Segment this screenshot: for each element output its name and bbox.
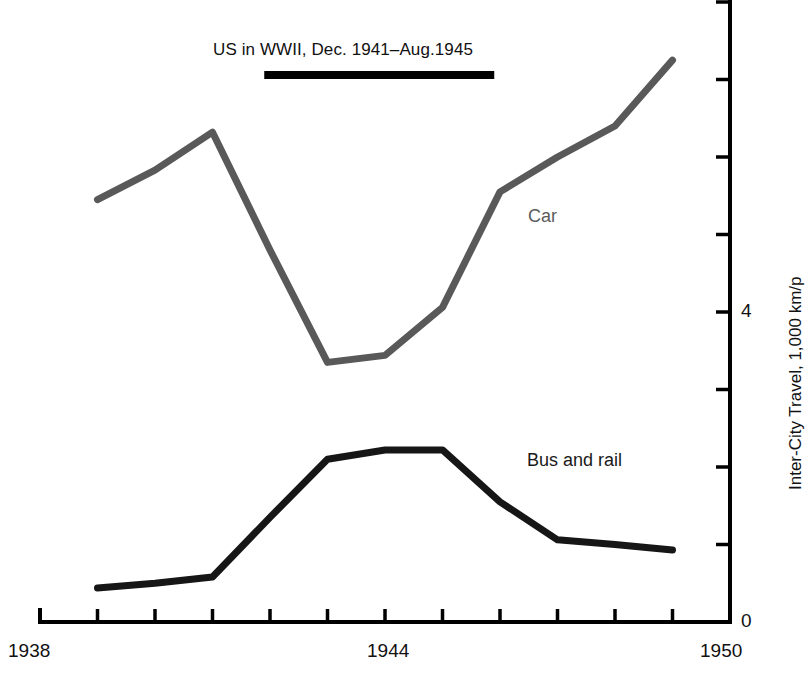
series-group	[98, 60, 673, 588]
series-label-bus-and-rail: Bus and rail	[527, 450, 622, 471]
y-axis-label-0: 0	[741, 610, 752, 632]
series-label-car: Car	[528, 206, 557, 227]
x-axis-label-1944: 1944	[367, 640, 409, 662]
x-axis-label-1938: 1938	[8, 640, 50, 662]
y-axis-label-4: 4	[741, 300, 752, 322]
wwii-annotation-label: US in WWII, Dec. 1941–Aug.1945	[213, 40, 473, 60]
axis-group	[40, 0, 730, 622]
x-axis-label-1950: 1950	[700, 640, 742, 662]
y-axis-title: Inter-City Travel, 1,000 km/p	[786, 276, 806, 490]
